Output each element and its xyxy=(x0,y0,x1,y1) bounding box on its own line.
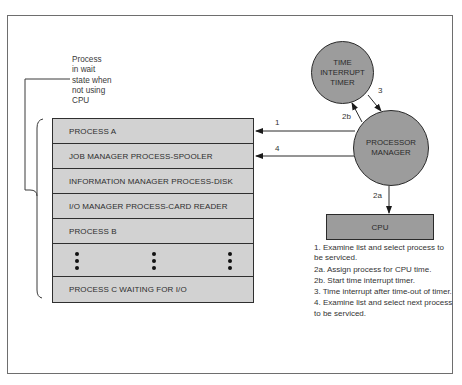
step-item: 2a. Assign process for CPU time. xyxy=(314,265,454,275)
cpu-node: CPU xyxy=(326,214,434,240)
process-list: PROCESS A JOB MANAGER PROCESS-SPOOLER IN… xyxy=(52,118,254,303)
edge-label-2b: 2b xyxy=(342,112,351,121)
step-item: 3. Time interrupt after time-out of time… xyxy=(314,287,454,297)
vertical-ellipsis-icon xyxy=(228,252,232,273)
step-legend: 1. Examine list and select process to be… xyxy=(314,243,454,320)
process-row: I/O MANAGER PROCESS-CARD READER xyxy=(53,194,253,219)
time-interrupt-timer-node: TIME INTERRUPT TIMER xyxy=(311,41,374,104)
process-row: PROCESS B xyxy=(53,219,253,244)
vertical-ellipsis-icon xyxy=(75,252,79,273)
process-row: PROCESS A xyxy=(53,119,253,144)
step-item: 2b. Start time interrupt timer. xyxy=(314,276,454,286)
edge-label-2a: 2a xyxy=(373,191,382,200)
process-row: JOB MANAGER PROCESS-SPOOLER xyxy=(53,144,253,169)
step-item: 1. Examine list and select process to be… xyxy=(314,243,454,264)
step-item: 4. Examine list and select next process … xyxy=(314,298,454,319)
ellipsis-row xyxy=(53,244,253,277)
vertical-ellipsis-icon xyxy=(152,252,156,273)
processor-manager-node: PROCESSOR MANAGER xyxy=(353,110,429,186)
edge-label-1: 1 xyxy=(275,118,279,127)
process-row: INFORMATION MANAGER PROCESS-DISK xyxy=(53,169,253,194)
process-row: PROCESS C WAITING FOR I/O xyxy=(53,277,253,302)
edge-label-4: 4 xyxy=(275,144,279,153)
edge-label-3: 3 xyxy=(378,86,382,95)
